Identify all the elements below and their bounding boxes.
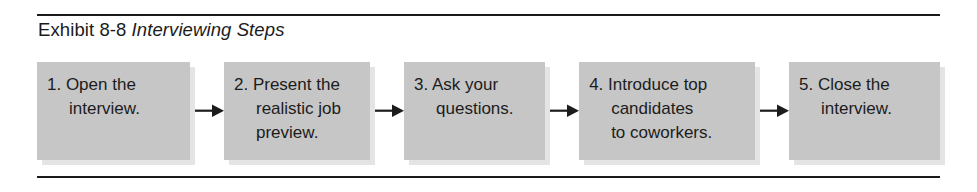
flow-step-3-label: 3. Ask your questions. (414, 73, 539, 121)
arrow-right-icon (190, 103, 224, 119)
flow-step-2-label: 2. Present the realistic job preview. (234, 73, 364, 145)
bottom-rule (37, 176, 940, 178)
arrow-right-icon (545, 103, 579, 119)
exhibit-subject: Interviewing Steps (132, 19, 285, 40)
flow-step-1: 1. Open the interview. (37, 62, 190, 160)
top-rule (37, 14, 940, 16)
flow-arrow-2 (370, 62, 404, 160)
flow-step-5-label: 5. Close the interview. (799, 73, 934, 121)
flow-arrow-4 (755, 62, 789, 160)
flow-step-2: 2. Present the realistic job preview. (224, 62, 370, 160)
flow-step-1-label: 1. Open the interview. (47, 73, 184, 121)
flow-arrow-3 (545, 62, 579, 160)
arrow-right-icon (370, 103, 404, 119)
flow-step-5: 5. Close the interview. (789, 62, 940, 160)
exhibit-figure: Exhibit 8-8Interviewing Steps 1. Open th… (37, 0, 940, 192)
arrow-right-icon (755, 103, 789, 119)
exhibit-label: Exhibit 8-8 (38, 19, 127, 40)
flow-step-3: 3. Ask your questions. (404, 62, 545, 160)
flow-step-4-label: 4. Introduce top candidates to coworkers… (589, 73, 749, 145)
flow-arrow-1 (190, 62, 224, 160)
flow-step-4: 4. Introduce top candidates to coworkers… (579, 62, 755, 160)
interviewing-steps-flow: 1. Open the interview. 2. Present the re… (37, 62, 940, 160)
exhibit-title: Exhibit 8-8Interviewing Steps (38, 19, 284, 41)
